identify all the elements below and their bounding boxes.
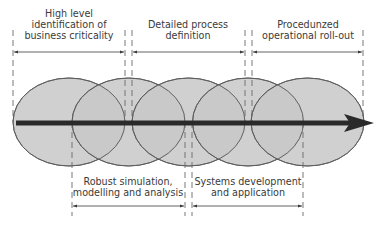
phase-label-top-3: Procedunzed operational roll-out (248, 19, 368, 41)
phase-label-top-1: High level identification of business cr… (9, 8, 129, 41)
phase-label-top-2: Detailed process definition (128, 19, 248, 41)
phase-label-bottom-1: Robust simulation, modelling and analysi… (68, 176, 188, 198)
phase-label-bottom-2: Systems development and application (188, 176, 308, 198)
